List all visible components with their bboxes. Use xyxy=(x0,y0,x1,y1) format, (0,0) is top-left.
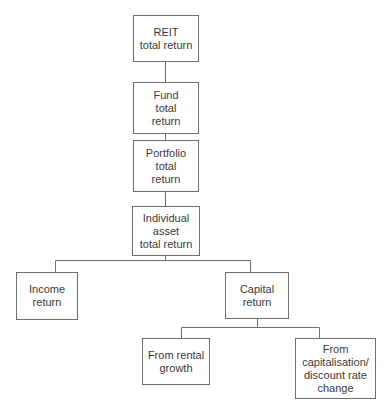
node-fund-total-return: Fund total return xyxy=(133,82,199,134)
node-reit-total-return: REIT total return xyxy=(133,15,199,62)
node-from-capitalisation-discount-rate-change: From capitalisation/ discount rate chang… xyxy=(295,338,376,399)
node-from-rental-growth: From rental growth xyxy=(142,338,210,385)
node-capital-return: Capital return xyxy=(225,272,289,319)
node-individual-asset-total-return: Individual asset total return xyxy=(132,206,200,256)
node-portfolio-total-return: Portfolio total return xyxy=(133,140,199,192)
node-income-return: Income return xyxy=(16,272,78,320)
